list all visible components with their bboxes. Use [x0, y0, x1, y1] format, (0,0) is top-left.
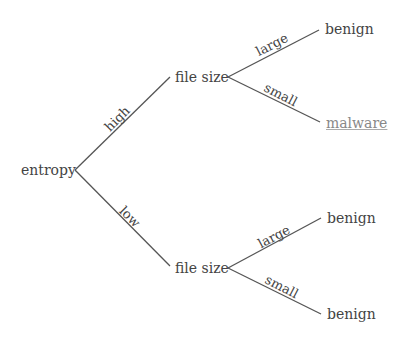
root-node-entropy: entropy	[21, 162, 76, 178]
leaf-benign-2: benign	[327, 210, 376, 226]
leaf-malware: malware	[326, 115, 387, 131]
node-file-size-low: file size	[175, 260, 229, 276]
node-file-size-high: file size	[175, 69, 229, 85]
leaf-benign-3: benign	[327, 306, 376, 322]
leaf-benign-1: benign	[325, 21, 374, 37]
